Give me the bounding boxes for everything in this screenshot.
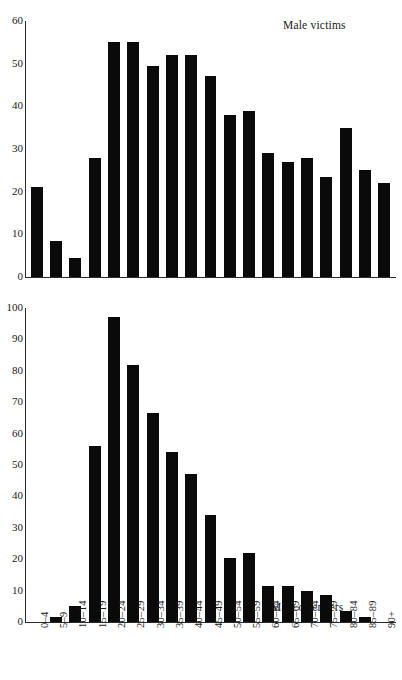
y-tick-offenders-20: 20 xyxy=(12,553,23,564)
x-tick-label-10-14: 10–14 xyxy=(77,600,88,628)
x-tick-label-90+: 90+ xyxy=(386,611,397,628)
x-axis-line-victims xyxy=(25,277,396,278)
bar xyxy=(262,153,274,277)
y-tick-offenders-70: 70 xyxy=(12,396,23,407)
chart-panel-male-victims: Male victims 6050403020100 xyxy=(0,0,402,292)
x-tick-label-45-49: 45–49 xyxy=(213,600,224,628)
x-tick-label-25-29: 25–29 xyxy=(135,600,146,628)
x-tick-label-15-19: 15–19 xyxy=(97,600,108,628)
y-tick-offenders-40: 40 xyxy=(12,490,23,501)
bar-series-male-offenders xyxy=(25,308,392,622)
bar xyxy=(301,158,313,277)
bar xyxy=(127,42,139,277)
x-tick-label-80-84: 80–84 xyxy=(348,600,359,628)
bar xyxy=(205,76,217,277)
x-tick-label-65-69: 65–69 xyxy=(290,600,301,628)
bar xyxy=(166,55,178,277)
y-tick-victims-10: 10 xyxy=(12,228,23,239)
bar xyxy=(147,66,159,277)
figure-root: Male victims 6050403020100 Male offender… xyxy=(0,0,402,680)
y-tick-victims-60: 60 xyxy=(12,15,23,26)
x-tick-label-60-64: 60–64 xyxy=(270,600,281,628)
y-tick-victims-0: 0 xyxy=(18,271,24,282)
bar xyxy=(50,241,62,277)
chart-panel-male-offenders: Male offenders 1009080706050403020100 0–… xyxy=(0,292,402,680)
x-tick-label-35-39: 35–39 xyxy=(174,600,185,628)
bar-series-male-victims xyxy=(25,21,392,277)
y-tick-offenders-30: 30 xyxy=(12,522,23,533)
x-tick-label-75-79: 75–79 xyxy=(328,600,339,628)
bar xyxy=(320,177,332,277)
x-tick-label-30-34: 30–34 xyxy=(155,600,166,628)
y-tick-offenders-90: 90 xyxy=(12,333,23,344)
y-tick-offenders-100: 100 xyxy=(7,302,24,313)
bar xyxy=(69,258,81,277)
bar xyxy=(89,158,101,277)
x-tick-label-0-4: 0–4 xyxy=(39,611,50,628)
bar xyxy=(282,162,294,277)
bar xyxy=(147,413,159,622)
x-tick-label-20-24: 20–24 xyxy=(116,600,127,628)
bar xyxy=(108,42,120,277)
bar xyxy=(108,317,120,622)
x-tick-label-55-59: 55–59 xyxy=(251,600,262,628)
bar xyxy=(359,170,371,277)
y-tick-victims-40: 40 xyxy=(12,100,23,111)
bar xyxy=(378,183,390,277)
bar xyxy=(127,365,139,622)
y-tick-victims-30: 30 xyxy=(12,143,23,154)
x-tick-label-40-44: 40–44 xyxy=(193,600,204,628)
bar xyxy=(224,115,236,277)
y-tick-offenders-60: 60 xyxy=(12,428,23,439)
y-tick-offenders-10: 10 xyxy=(12,585,23,596)
bar xyxy=(166,452,178,622)
bar xyxy=(185,55,197,277)
y-tick-offenders-80: 80 xyxy=(12,365,23,376)
y-tick-offenders-50: 50 xyxy=(12,459,23,470)
x-tick-label-70-74: 70–74 xyxy=(309,600,320,628)
y-tick-offenders-0: 0 xyxy=(18,616,24,627)
bar xyxy=(243,111,255,277)
y-tick-victims-50: 50 xyxy=(12,58,23,69)
x-tick-label-50-54: 50–54 xyxy=(232,600,243,628)
y-tick-victims-20: 20 xyxy=(12,186,23,197)
bar xyxy=(89,446,101,622)
bar xyxy=(31,187,43,277)
x-tick-label-85-89: 85–89 xyxy=(367,600,378,628)
x-tick-label-5-9: 5–9 xyxy=(58,611,69,628)
bar xyxy=(340,128,352,277)
